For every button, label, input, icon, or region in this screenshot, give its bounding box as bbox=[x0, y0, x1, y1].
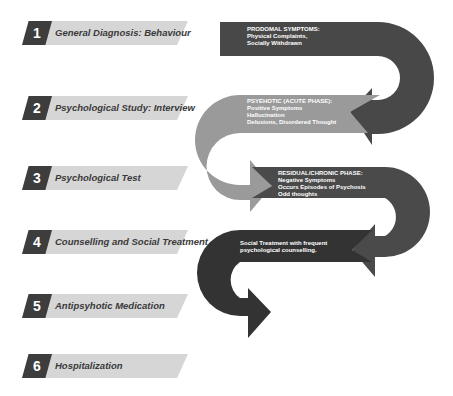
step-label: Psychological Test bbox=[55, 166, 141, 190]
acute-phase-text: PSYEHOTIC (ACUTE PHASE): Positive Sympto… bbox=[247, 98, 336, 126]
phase-line: Delusions, Disordered Thought bbox=[247, 119, 336, 126]
phase-line: Physical Complaints, bbox=[247, 33, 320, 40]
phase-flow-arrows bbox=[0, 0, 453, 396]
step-6: 6 Hospitalization bbox=[22, 354, 188, 378]
step-5: 5 Antipsyhotic Medication bbox=[22, 294, 188, 318]
phase-title: PSYEHOTIC (ACUTE PHASE): bbox=[247, 98, 336, 105]
step-label: Hospitalization bbox=[55, 354, 123, 378]
phase-line: Odd thoughts bbox=[278, 191, 366, 198]
phase-line: Positive Symptoms bbox=[247, 105, 336, 112]
step-label: General Diagnosis: Behaviour bbox=[55, 21, 191, 45]
step-label: Counselling and Social Treatment bbox=[55, 230, 208, 254]
phase-title: PRODOMAL SYMPTOMS: bbox=[247, 26, 320, 33]
step-label: Antipsyhotic Medication bbox=[55, 294, 165, 318]
prodromal-text: PRODOMAL SYMPTOMS: Physical Complaints, … bbox=[247, 26, 320, 47]
phase-title: RESIDUAL/CHRONIC PHASE: bbox=[278, 170, 366, 177]
phase-line: Socially Withdrawn bbox=[247, 40, 320, 47]
step-3: 3 Psychological Test bbox=[22, 166, 188, 190]
step-label: Psychological Study: Interview bbox=[55, 96, 195, 120]
step-1: 1 General Diagnosis: Behaviour bbox=[22, 21, 188, 45]
phase-line: psychological counselling. bbox=[240, 247, 327, 254]
phase-line: Occurs Episodes of Psychosis bbox=[278, 184, 366, 191]
treatment-text: Social Treatment with frequent psycholog… bbox=[240, 240, 327, 254]
phase-line: Hallucination bbox=[247, 112, 336, 119]
phase-line: Social Treatment with frequent bbox=[240, 240, 327, 247]
residual-phase-text: RESIDUAL/CHRONIC PHASE: Negative Symptom… bbox=[278, 170, 366, 198]
step-4: 4 Counselling and Social Treatment bbox=[22, 230, 188, 254]
phase-line: Negative Symptoms bbox=[278, 177, 366, 184]
step-2: 2 Psychological Study: Interview bbox=[22, 96, 188, 120]
